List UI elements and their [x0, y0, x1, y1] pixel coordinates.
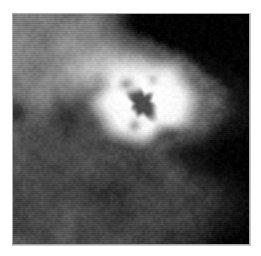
- scan-image[interactable]: [13, 14, 249, 244]
- scan-page: [0, 0, 261, 256]
- scan-image-frame[interactable]: [12, 13, 250, 245]
